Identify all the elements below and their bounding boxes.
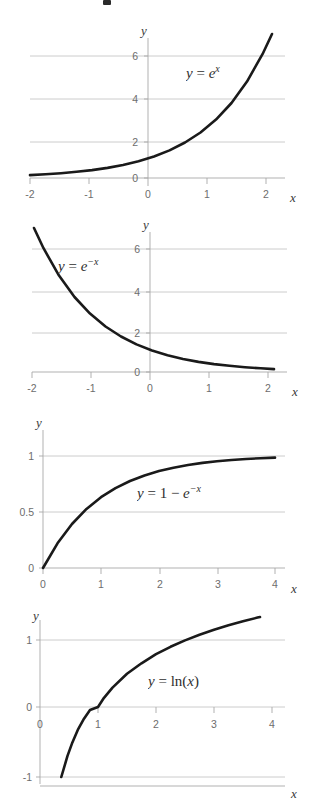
xtick-label: 1 [204, 188, 210, 200]
xtick-label: -2 [25, 188, 34, 200]
xtick-label: -2 [27, 382, 36, 394]
ytick-label: 2 [132, 136, 138, 148]
equation-label-3: y = 1 − e−x [137, 480, 252, 506]
xtick-label: -1 [86, 382, 95, 394]
svg-text:y = 1 − e−x: y = 1 − e−x [137, 483, 202, 501]
x-axis-label: x [289, 190, 296, 205]
eq-sign: = [196, 65, 204, 81]
ytick-label: 0 [132, 172, 138, 184]
xtick-label: 0 [145, 188, 151, 200]
xtick-label: 0 [37, 718, 43, 730]
xtick-label: 0 [147, 382, 153, 394]
xtick-label: 3 [215, 578, 221, 590]
ytick-label: 0 [134, 366, 140, 378]
eq-minus: − [171, 485, 179, 501]
y-axis-label: y [139, 23, 147, 38]
eq-one: 1 [160, 485, 168, 501]
svg-text:y = e−x: y = e−x [58, 256, 99, 274]
xtick-label: 4 [272, 578, 278, 590]
xtick-label: 2 [263, 188, 269, 200]
ytick-label: -1 [23, 771, 32, 783]
svg-text:y = ex: y = ex [186, 63, 220, 81]
ytick-label: 1 [26, 634, 32, 646]
x-axis-label: x [290, 786, 297, 801]
figure-sheet: 6 4 2 0 -2 -1 0 1 2 y x y = ex [0, 0, 319, 812]
xtick-label: 2 [157, 578, 163, 590]
equation-label-2: y = e−x [58, 253, 158, 279]
ytick-label: 0 [28, 562, 34, 574]
equation-label-1: y = ex [186, 60, 276, 86]
cropped-text-artifact [103, 0, 111, 5]
ytick-label: 0 [26, 701, 32, 713]
eq-close-paren: ) [194, 673, 199, 690]
ytick-label: 4 [132, 93, 138, 105]
eq-exponent: −x [87, 256, 99, 267]
ytick-label: 6 [132, 50, 138, 62]
y-axis-label: y [141, 217, 149, 232]
eq-sign: = [68, 258, 76, 274]
chart-ln-x: 1 0 -1 0 1 2 3 4 y x y = ln(x) [0, 608, 319, 812]
eq-sign: = [158, 673, 166, 689]
ytick-label: 0.5 [19, 506, 34, 518]
xtick-label: 2 [265, 382, 271, 394]
equation-label-4: y = ln(x) [148, 668, 248, 694]
xtick-label: 1 [206, 382, 212, 394]
chart-exp-neg-x: 6 4 2 0 -2 -1 0 1 2 y x y = e−x [0, 212, 319, 404]
curve-one-minus-exp [43, 458, 275, 568]
ytick-label: 2 [134, 327, 140, 339]
xtick-label: 1 [95, 718, 101, 730]
eq-sign: = [147, 485, 155, 501]
xtick-label: 1 [98, 578, 104, 590]
y-axis-label: y [31, 608, 39, 623]
svg-text:y = ln(x): y = ln(x) [148, 673, 199, 690]
eq-exponent: x [214, 63, 220, 74]
ytick-label: 4 [134, 286, 140, 298]
ytick-label: 1 [28, 450, 34, 462]
xtick-label: 2 [153, 718, 159, 730]
curve-ln-x [61, 617, 260, 777]
y-axis-label: y [34, 415, 42, 430]
x-axis-label: x [290, 581, 297, 596]
xtick-label: 3 [211, 718, 217, 730]
chart-one-minus-exp: 1 0.5 0 0 1 2 3 4 y x y = 1 − e−x [0, 412, 319, 600]
chart-exp-x: 6 4 2 0 -2 -1 0 1 2 y x y = ex [0, 18, 319, 210]
xtick-label: 4 [269, 718, 275, 730]
eq-function: ln( [171, 673, 188, 690]
curve-exp-x [30, 34, 272, 175]
xtick-label: -1 [84, 188, 93, 200]
x-axis-label: x [291, 384, 298, 399]
eq-exponent: −x [190, 483, 202, 494]
xtick-label: 0 [40, 578, 46, 590]
